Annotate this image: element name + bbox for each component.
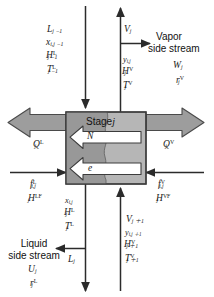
label-liquid-inlet-L: Lj −1	[47, 25, 62, 35]
label-liquid-outlet-L: Lj	[68, 255, 75, 265]
label-liquid-side-U: Uj	[28, 265, 37, 275]
liquid-side-stream-caption-line2: side stream	[1, 250, 67, 261]
stage-word: Stage	[86, 116, 112, 127]
label-vapor-side-r: rVj	[176, 76, 180, 86]
label-vapor-y: yi,j	[123, 56, 131, 64]
label-vapor-inlet-y: yi,j ＋1	[125, 229, 142, 237]
label-vapor-T: TVj	[123, 81, 126, 91]
label-liquid-outlet-x: xi,j	[65, 197, 73, 205]
label-vapor-inlet-V: Vj ＋1	[126, 215, 144, 225]
label-liquid-side-r: rLj	[30, 279, 33, 289]
liquid-side-stream-caption-line1: Liquid	[10, 238, 58, 249]
stage-box-label: Stagej	[86, 116, 136, 127]
label-heat-vapor-Q: QVj	[163, 140, 167, 150]
label-vapor-feed-H: HVFj	[156, 194, 158, 204]
heat-arrow-vapor	[146, 108, 204, 137]
label-vapor-feed-f: fVi,j	[158, 180, 164, 190]
label-liquid-inlet-x: xi,j −1	[46, 38, 63, 48]
label-liquid-feed-f: fLi,j	[30, 180, 36, 190]
vapor-side-stream-caption-line2: side stream	[148, 43, 214, 54]
stage-index: j	[112, 116, 115, 127]
label-vapor-outlet-V: Vj	[124, 25, 131, 35]
stage-balance-diagram: Lj −1 xi,j −1 HLj −1 TLj −1 Vj yi,j HVj …	[0, 0, 214, 297]
label-liquid-feed-H: HLFj	[28, 194, 29, 204]
label-mass-transfer-N: N	[87, 132, 93, 142]
label-liquid-inlet-T: TLj −1	[47, 65, 58, 75]
label-liquid-outlet-T: TLj	[65, 222, 68, 232]
label-vapor-inlet-T: TVj ＋1	[125, 254, 139, 264]
vapor-side-stream-caption-line1: Vapor	[156, 31, 214, 42]
label-heat-liquid-Q: QLj	[33, 140, 36, 150]
label-liquid-outlet-H: HLj	[64, 208, 67, 218]
label-vapor-inlet-H: HVj ＋1	[124, 240, 138, 250]
label-liquid-inlet-H: HLj −1	[46, 51, 57, 61]
label-vapor-side-W: Wj	[173, 61, 183, 71]
label-energy-transfer-e: e	[88, 164, 92, 174]
heat-arrow-liquid	[8, 108, 66, 137]
label-vapor-H: HVj	[122, 67, 126, 77]
